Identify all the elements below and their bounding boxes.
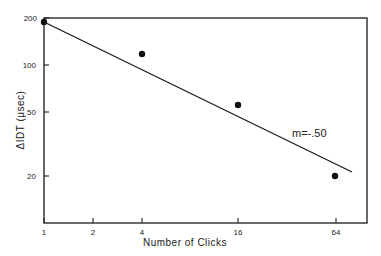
fit-line — [44, 22, 352, 172]
data-point — [139, 51, 145, 57]
x-tick-label: 64 — [332, 228, 341, 237]
y-axis — [44, 18, 49, 176]
data-point — [41, 19, 47, 25]
chart: 200 100 50 20 1 2 4 16 64 Number of Clic… — [0, 0, 381, 256]
y-tick-label: 200 — [24, 14, 38, 23]
x-tick-labels: 1 2 4 16 64 — [42, 228, 341, 237]
plot-frame — [44, 18, 367, 223]
slope-annotation: m=-.50 — [292, 127, 327, 139]
x-tick-label: 4 — [140, 228, 145, 237]
y-tick-label: 20 — [27, 172, 36, 181]
x-tick-label: 1 — [42, 228, 47, 237]
data-point — [235, 102, 241, 108]
y-axis-title: ΔIDT (μsec) — [15, 91, 26, 150]
x-axis — [44, 218, 336, 223]
y-tick-label: 100 — [23, 61, 37, 70]
y-tick-label: 50 — [27, 108, 36, 117]
x-tick-label: 16 — [234, 228, 243, 237]
data-point — [332, 173, 338, 179]
x-tick-label: 2 — [91, 228, 96, 237]
x-axis-title: Number of Clicks — [143, 237, 227, 248]
